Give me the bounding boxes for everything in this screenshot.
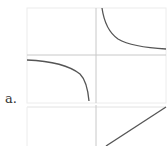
upper-panel: [27, 8, 166, 103]
hyperbola-left-branch: [27, 60, 89, 101]
figure-graphs: [0, 0, 168, 146]
hyperbola-right-branch: [102, 8, 166, 49]
linear-function-line: [106, 107, 166, 146]
lower-panel: [27, 105, 166, 146]
